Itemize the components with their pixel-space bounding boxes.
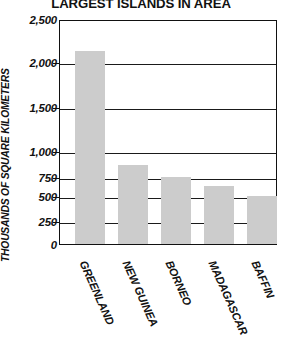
x-axis-category-label: BORNEO	[164, 259, 194, 308]
chart-container: LARGEST ISLANDS IN AREA THOUSANDS OF SQU…	[0, 0, 282, 351]
x-axis-category-label: GREENLAND	[78, 259, 117, 327]
x-axis-category-labels: GREENLANDNEW GUINEABORNEOMADAGASCARBAFFI…	[0, 0, 282, 351]
x-axis-category-label: NEW GUINEA	[121, 259, 161, 328]
x-axis-category-label: BAFFIN	[250, 259, 277, 300]
x-axis-category-label: MADAGASCAR	[207, 259, 251, 337]
